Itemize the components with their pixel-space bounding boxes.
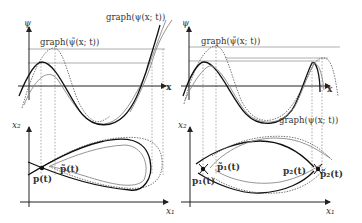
right-bottom-phase: p₁(t) p̃₁(t) p₂(t) p̃₂(t) x₂ x₁ xyxy=(178,120,343,216)
left-bottom-phase: p(t) p̃(t) x₂ x₁ xyxy=(12,120,175,216)
x-axis-label: x xyxy=(166,82,172,92)
x-axis-label: x xyxy=(327,84,333,94)
p1-label: p₁(t) xyxy=(192,176,215,186)
right-panel: ψ x graph(ψ̃(x; t)) graph(ψ(x; t)) p₁(t)… xyxy=(178,18,343,216)
graph-psi-tilde-label: graph(ψ̃(x; t)) xyxy=(201,36,260,46)
graph-psi-curve-gray xyxy=(24,20,166,124)
x2-axis-label: x₂ xyxy=(178,120,187,130)
p-label: p(t) xyxy=(33,174,52,184)
graph-psi-curve-gray xyxy=(185,64,324,122)
right-top-graph: ψ x graph(ψ̃(x; t)) graph(ψ(x; t)) xyxy=(181,18,340,175)
graph-psi-tilde-curve xyxy=(22,48,110,122)
x2-axis-label: x₂ xyxy=(12,120,21,130)
psi-axis-label: ψ xyxy=(24,18,32,28)
psi-axis-label: ψ xyxy=(182,18,190,28)
x1-axis-label: x₁ xyxy=(326,206,335,216)
orbit-tilde xyxy=(45,137,162,188)
graph-psi-label: graph(ψ(x; t)) xyxy=(106,12,165,22)
left-panel: ψ x graph(ψ̃(x; t)) graph(ψ(x; t)) p(t) … xyxy=(12,12,175,216)
saddle-point-p xyxy=(40,166,44,170)
upper-heteroclinic-orbit xyxy=(196,141,314,167)
p1-tilde-label: p̃₁(t) xyxy=(217,162,240,172)
graph-psi-tilde-curve xyxy=(184,46,338,120)
p2-tilde-label: p̃₂(t) xyxy=(320,169,343,179)
x1-axis-label: x₁ xyxy=(166,206,175,216)
p-tilde-label: p̃(t) xyxy=(60,164,79,174)
left-top-graph: ψ x graph(ψ̃(x; t)) graph(ψ(x; t)) xyxy=(18,12,172,175)
graph-psi-tilde-label: graph(ψ̃(x; t)) xyxy=(40,37,99,47)
graph-psi-label: graph(ψ(x; t)) xyxy=(279,115,338,125)
p2-label: p₂(t) xyxy=(283,166,306,176)
saddle-point-p1 xyxy=(201,167,205,171)
figure-canvas: ψ x graph(ψ̃(x; t)) graph(ψ(x; t)) p(t) … xyxy=(0,0,362,223)
